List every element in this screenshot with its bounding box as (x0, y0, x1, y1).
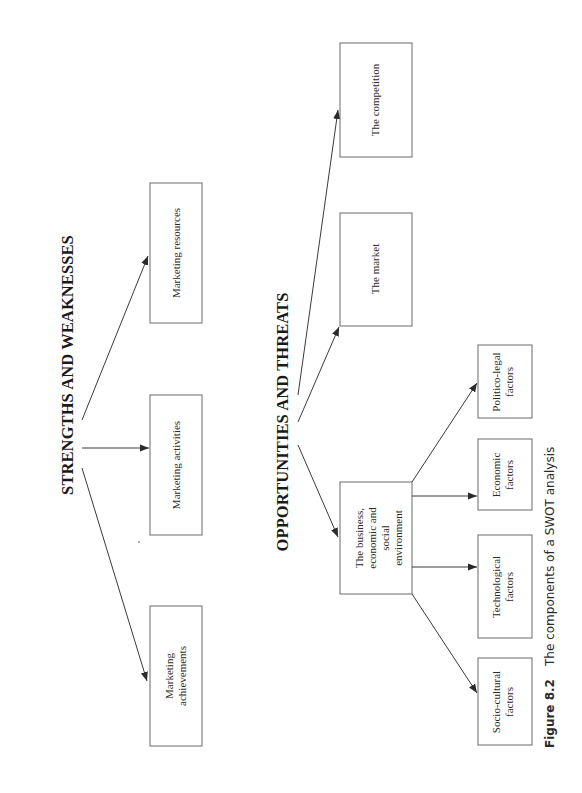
node-technological: Technological factors (478, 535, 532, 638)
node-label: Socio-cultural (490, 671, 502, 733)
node-label: social (379, 525, 391, 551)
node-the-competition: The competition (340, 43, 412, 157)
figure-caption: Figure 8.2 The components of a SWOT anal… (543, 447, 557, 748)
edge-to-business-environment (298, 445, 338, 537)
speck (138, 541, 140, 543)
node-marketing-achievements: Marketing achievements (150, 606, 202, 746)
node-label: The business, (353, 508, 365, 568)
node-label: factors (503, 460, 515, 490)
node-label: achievements (176, 646, 188, 706)
node-politico-legal: Politico-legal factors (478, 345, 532, 418)
edge-to-the-market (298, 327, 339, 422)
node-label: Politico-legal (490, 352, 502, 411)
node-label: Economic (490, 453, 502, 498)
heading-opportunities-threats: OPPORTUNITIES AND THREATS (273, 293, 292, 552)
edge-to-politico-legal (412, 383, 477, 482)
edge-to-marketing-achievements (82, 468, 147, 681)
node-marketing-resources: Marketing resources (150, 183, 202, 323)
node-label: factors (503, 572, 515, 602)
node-label: factors (503, 687, 515, 717)
node-marketing-activities: Marketing activities (150, 395, 202, 535)
node-the-market: The market (340, 213, 412, 326)
edge-to-marketing-resources (82, 256, 148, 420)
node-label: Marketing resources (170, 208, 182, 298)
node-economic: Economic factors (478, 439, 532, 510)
node-label: economic and (366, 507, 378, 569)
edge-to-the-competition (298, 110, 338, 395)
node-socio-cultural: Socio-cultural factors (478, 658, 532, 745)
heading-strengths-weaknesses: STRENGTHS AND WEAKNESSES (58, 235, 77, 495)
node-label: The market (369, 244, 381, 294)
figure-title: The components of a SWOT analysis (543, 447, 557, 667)
node-label: Technological (490, 556, 502, 618)
node-label: environment (392, 510, 404, 566)
node-label: Marketing (163, 653, 175, 699)
node-label: The competition (369, 63, 381, 136)
node-label: factors (503, 367, 515, 397)
figure-number: Figure 8.2 (543, 679, 557, 748)
node-label: Marketing activities (170, 421, 182, 509)
node-business-environment: The business, economic and social enviro… (340, 482, 412, 594)
swot-diagram: STRENGTHS AND WEAKNESSES Marketing resou… (0, 0, 582, 793)
edge-to-socio-cultural (412, 594, 477, 693)
